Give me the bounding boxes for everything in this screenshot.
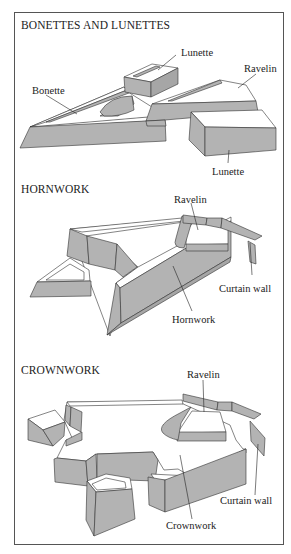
lunette-top-shape <box>124 64 178 97</box>
heading-hornwork: HORNWORK <box>21 183 90 195</box>
label-lunette-bottom: Lunette <box>212 166 244 177</box>
heading-bonettes-lunettes: BONETTES AND LUNETTES <box>21 19 170 31</box>
heading-crownwork: CROWNWORK <box>21 364 100 376</box>
section-hornwork: HORNWORK <box>21 183 271 336</box>
fortification-diagram: BONETTES AND LUNETTES <box>0 0 291 554</box>
leader-crownwork-ravelin <box>203 380 204 412</box>
label-ravelin: Ravelin <box>244 63 277 74</box>
bonette-shape <box>20 87 166 148</box>
section-crownwork: CROWNWORK <box>21 364 272 536</box>
lunette-bottom-shape <box>189 110 276 156</box>
label-lunette-top: Lunette <box>181 47 213 58</box>
label-crownwork: Crownwork <box>166 520 217 531</box>
label-hornwork-ravelin: Ravelin <box>174 194 207 205</box>
label-crownwork-curtain-wall: Curtain wall <box>220 495 272 506</box>
label-bonette: Bonette <box>32 85 65 96</box>
label-hornwork-curtain-wall: Curtain wall <box>219 283 271 294</box>
leader-crownwork-curtain-wall <box>255 444 258 495</box>
leader-ravelin <box>238 74 256 88</box>
leader-bonette <box>46 95 77 114</box>
section-bonettes-lunettes: BONETTES AND LUNETTES <box>20 19 277 177</box>
label-hornwork: Hornwork <box>172 314 216 325</box>
crownwork-detached-block-shape <box>28 410 65 446</box>
label-crownwork-ravelin: Ravelin <box>187 369 220 380</box>
